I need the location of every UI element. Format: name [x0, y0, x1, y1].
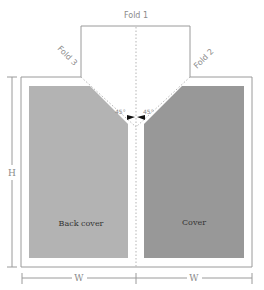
- width-right-label: W: [189, 273, 199, 283]
- height-label: H: [8, 168, 16, 178]
- width-left-label: W: [74, 273, 84, 283]
- right-angle-label: 45°: [143, 108, 154, 115]
- back-cover-label: Back cover: [59, 219, 104, 228]
- left-angle-label: 45°: [115, 108, 126, 115]
- left-angle-arrow-icon: [127, 115, 135, 120]
- book-cover-fold-diagram: Fold 1 Fold 3 Fold 2 45° 45° Back cover …: [0, 0, 264, 290]
- fold1-label: Fold 1: [124, 11, 148, 20]
- back-cover-panel: [29, 86, 128, 258]
- fold3-label: Fold 3: [56, 44, 79, 67]
- fold2-label: Fold 2: [192, 47, 215, 70]
- right-angle-arrow-icon: [137, 115, 145, 120]
- cover-panel: [144, 86, 244, 258]
- cover-label: Cover: [182, 218, 206, 227]
